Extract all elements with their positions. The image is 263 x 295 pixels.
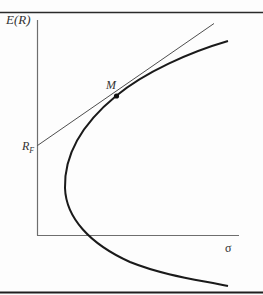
y-axis-label: E(R) [5, 12, 31, 27]
risk-free-label-subscript: F [28, 146, 34, 155]
efficient-frontier-figure: E(R) M RF σ [0, 0, 263, 295]
tangency-point-marker [114, 93, 119, 98]
x-axis-label: σ [225, 241, 232, 255]
tangency-point-label: M [105, 78, 117, 92]
risk-free-label: RF [21, 139, 34, 155]
efficient-frontier-curve [65, 41, 228, 286]
capital-market-line [38, 24, 215, 146]
cml-diagram: E(R) M RF σ [0, 0, 263, 295]
